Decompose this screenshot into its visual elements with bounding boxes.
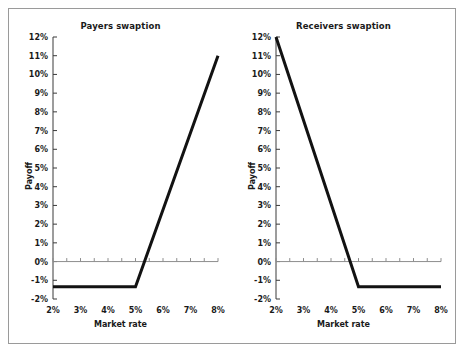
y-tick-label-receivers-9: 7% [257, 127, 271, 136]
y-tick-label-payers-14: 12% [29, 33, 48, 42]
y-tick-label-receivers-14: 12% [252, 33, 271, 42]
y-tick-label-payers-6: 4% [34, 183, 48, 192]
x-tick-label-receivers-1: 3% [297, 306, 311, 315]
y-tick-label-payers-0: -2% [31, 295, 48, 304]
plot-svg-receivers: -2%-1%0%1%2%3%4%5%6%7%8%9%10%11%12%2%3%4… [276, 37, 441, 299]
y-tick-label-receivers-11: 9% [257, 89, 271, 98]
charts-container: Payers swaption Payoff -2%-1%0%1%2%3%4%5… [9, 9, 455, 343]
y-tick-label-receivers-1: -1% [254, 276, 271, 285]
figure-frame: Payers swaption Payoff -2%-1%0%1%2%3%4%5… [8, 8, 456, 344]
x-tick-label-receivers-5: 7% [407, 306, 421, 315]
y-tick-label-payers-7: 5% [34, 164, 48, 173]
plot-area-payers: -2%-1%0%1%2%3%4%5%6%7%8%9%10%11%12%2%3%4… [53, 37, 218, 299]
x-tick-label-payers-5: 7% [184, 306, 198, 315]
chart-title-receivers: Receivers swaption [232, 21, 455, 31]
y-axis-label-payers: Payoff [25, 162, 34, 190]
y-tick-label-receivers-5: 3% [257, 201, 271, 210]
chart-panel-payers: Payers swaption Payoff -2%-1%0%1%2%3%4%5… [9, 9, 232, 343]
chart-title-payers: Payers swaption [9, 21, 232, 31]
chart-panel-receivers: Receivers swaption Payoff -2%-1%0%1%2%3%… [232, 9, 455, 343]
x-tick-label-receivers-0: 2% [269, 306, 283, 315]
x-tick-label-receivers-3: 5% [352, 306, 366, 315]
x-tick-label-receivers-2: 4% [324, 306, 338, 315]
x-tick-label-payers-6: 8% [211, 306, 225, 315]
y-tick-label-payers-12: 10% [29, 70, 48, 79]
y-tick-label-payers-3: 1% [34, 239, 48, 248]
y-tick-label-receivers-0: -2% [254, 295, 271, 304]
y-tick-label-payers-2: 0% [34, 258, 48, 267]
plot-area-receivers: -2%-1%0%1%2%3%4%5%6%7%8%9%10%11%12%2%3%4… [276, 37, 441, 299]
y-tick-label-payers-11: 9% [34, 89, 48, 98]
y-tick-label-receivers-12: 10% [252, 70, 271, 79]
y-tick-label-receivers-10: 8% [257, 108, 271, 117]
x-tick-label-payers-0: 2% [46, 306, 60, 315]
payoff-line-payers [53, 56, 218, 287]
plot-svg-payers: -2%-1%0%1%2%3%4%5%6%7%8%9%10%11%12%2%3%4… [53, 37, 218, 299]
x-tick-label-payers-2: 4% [101, 306, 115, 315]
y-tick-label-receivers-13: 11% [252, 52, 271, 61]
x-axis-label-receivers: Market rate [232, 320, 455, 329]
x-tick-label-receivers-6: 8% [434, 306, 448, 315]
y-tick-label-payers-13: 11% [29, 52, 48, 61]
y-tick-label-payers-10: 8% [34, 108, 48, 117]
y-tick-label-receivers-7: 5% [257, 164, 271, 173]
x-tick-label-payers-4: 6% [156, 306, 170, 315]
y-tick-label-payers-4: 2% [34, 220, 48, 229]
y-tick-label-payers-9: 7% [34, 127, 48, 136]
y-tick-label-receivers-4: 2% [257, 220, 271, 229]
y-tick-label-receivers-8: 6% [257, 145, 271, 154]
y-tick-label-receivers-2: 0% [257, 258, 271, 267]
y-tick-label-payers-1: -1% [31, 276, 48, 285]
y-tick-label-payers-8: 6% [34, 145, 48, 154]
y-tick-label-receivers-3: 1% [257, 239, 271, 248]
y-axis-label-receivers: Payoff [248, 162, 257, 190]
x-tick-label-payers-1: 3% [74, 306, 88, 315]
x-tick-label-payers-3: 5% [129, 306, 143, 315]
x-axis-label-payers: Market rate [9, 320, 232, 329]
y-tick-label-payers-5: 3% [34, 201, 48, 210]
y-tick-label-receivers-6: 4% [257, 183, 271, 192]
x-tick-label-receivers-4: 6% [379, 306, 393, 315]
payoff-line-receivers [276, 37, 441, 287]
